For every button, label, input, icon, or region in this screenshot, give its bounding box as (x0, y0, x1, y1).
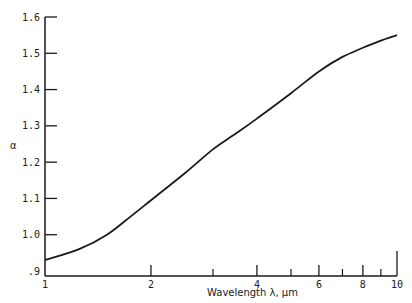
y-tick-label: 1.5 (22, 48, 40, 59)
chart: .91.01.11.21.31.41.51.6 1246810 α Wavele… (0, 0, 412, 303)
x-tick-label: 2 (148, 279, 154, 290)
y-tick-label: .9 (28, 266, 40, 277)
y-tick-label: 1.2 (22, 157, 40, 168)
x-tick-label: 1 (42, 279, 48, 290)
data-curve (45, 35, 397, 260)
x-tick-label: 6 (316, 279, 322, 290)
x-axis-title: Wavelength λ, μm (207, 287, 298, 298)
x-axis: 1246810 (42, 251, 403, 290)
y-tick-label: 1.4 (22, 84, 40, 95)
y-tick-label: 1.1 (22, 193, 40, 204)
y-tick-label: 1.3 (22, 120, 40, 131)
x-tick-label: 10 (391, 279, 403, 290)
y-axis: .91.01.11.21.31.41.51.6 (22, 12, 57, 277)
x-tick-label: 8 (360, 279, 366, 290)
y-tick-label: 1.0 (22, 229, 40, 240)
y-tick-label: 1.6 (22, 12, 40, 23)
y-axis-title: α (10, 140, 17, 151)
